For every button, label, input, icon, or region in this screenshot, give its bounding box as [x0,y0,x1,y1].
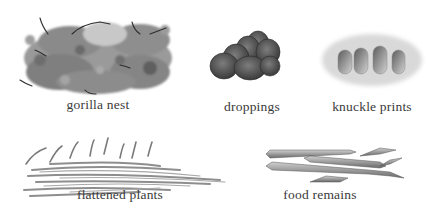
flattened-plants-item: flattened plants [0,120,240,212]
food-remains-label: food remains [283,187,356,203]
droppings-label: droppings [224,99,280,115]
knuckle-prints-item: knuckle prints [310,0,434,120]
knuckle-prints-label: knuckle prints [332,99,412,115]
droppings-item: droppings [200,0,310,120]
gorilla-nest-label: gorilla nest [67,97,130,113]
food-remains-item: food remains [240,120,434,212]
gorilla-nest-item: gorilla nest [0,0,200,120]
flattened-plants-label: flattened plants [77,187,163,203]
